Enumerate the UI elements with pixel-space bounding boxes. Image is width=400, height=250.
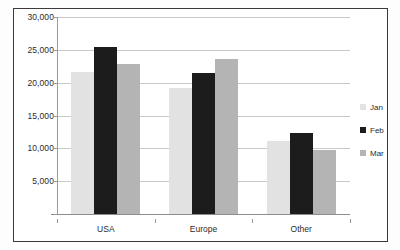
y-axis-tick-label: - xyxy=(2,209,54,219)
y-axis-tick-label: 15,000 xyxy=(2,111,54,121)
bar-europe-feb[interactable] xyxy=(192,73,215,214)
legend-item-label: Feb xyxy=(370,126,384,135)
y-axis-tick-label: 10,000 xyxy=(2,143,54,153)
legend-item-jan[interactable]: Jan xyxy=(360,99,396,115)
y-axis-tick-label: 20,000 xyxy=(2,78,54,88)
legend-item-label: Jan xyxy=(370,103,383,112)
x-axis-tick-label-europe: Europe xyxy=(190,224,217,234)
x-axis-tick-mark xyxy=(57,219,58,223)
legend-swatch-icon xyxy=(360,104,366,110)
bar-usa-mar[interactable] xyxy=(117,64,140,214)
legend-item-label: Mar xyxy=(370,149,384,158)
chart-legend: JanFebMar xyxy=(360,99,396,168)
bar-group-usa xyxy=(57,17,155,214)
legend-swatch-icon xyxy=(360,127,366,133)
bar-group-europe xyxy=(155,17,253,214)
legend-swatch-icon xyxy=(360,150,366,156)
bar-europe-jan[interactable] xyxy=(169,88,192,214)
legend-item-mar[interactable]: Mar xyxy=(360,145,396,161)
x-axis: USAEuropeOther xyxy=(57,219,350,239)
y-axis-tick-label: 30,000 xyxy=(2,12,54,22)
bar-group-other xyxy=(252,17,350,214)
bar-other-jan[interactable] xyxy=(267,141,290,214)
x-axis-tick-mark xyxy=(155,219,156,223)
bar-usa-jan[interactable] xyxy=(71,72,94,214)
x-axis-tick-mark xyxy=(350,219,351,223)
y-axis: -5,00010,00015,00020,00025,00030,000 xyxy=(0,0,54,250)
bar-other-mar[interactable] xyxy=(313,150,336,214)
y-axis-tick-label: 25,000 xyxy=(2,45,54,55)
plot-area xyxy=(57,17,350,214)
x-axis-tick-label-usa: USA xyxy=(97,224,114,234)
x-axis-tick-label-other: Other xyxy=(291,224,312,234)
x-axis-tick-mark xyxy=(252,219,253,223)
y-axis-tick-label: 5,000 xyxy=(2,176,54,186)
bar-usa-feb[interactable] xyxy=(94,47,117,214)
y-axis-line xyxy=(57,17,58,215)
x-axis-line xyxy=(57,214,350,215)
bar-other-feb[interactable] xyxy=(290,133,313,214)
legend-item-feb[interactable]: Feb xyxy=(360,122,396,138)
bar-europe-mar[interactable] xyxy=(215,59,238,214)
chart-figure: -5,00010,00015,00020,00025,00030,000 USA… xyxy=(0,0,400,250)
